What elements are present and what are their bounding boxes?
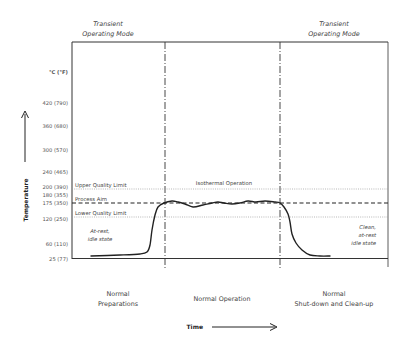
phase3-label-2: Shut-down and Clean-up bbox=[295, 300, 374, 308]
temperature-diagram: Transient Operating Mode Transient Opera… bbox=[0, 0, 404, 346]
mode-left-line2: Operating Mode bbox=[82, 30, 133, 38]
lower-quality-limit-label: Lower Quality Limit bbox=[75, 210, 126, 217]
temperature-curve bbox=[91, 201, 330, 256]
phase1-label-1: Normal bbox=[106, 290, 129, 298]
y-tick-60: 60 (110) bbox=[46, 241, 68, 247]
mode-right-line2: Operating Mode bbox=[308, 30, 359, 38]
y-tick-420: 420 (790) bbox=[43, 100, 69, 106]
y-tick-200: 200 (390) bbox=[43, 184, 69, 190]
y-tick-180: 180 (355) bbox=[43, 192, 69, 198]
x-axis-title: Time bbox=[187, 323, 203, 330]
phase3-label-1: Normal bbox=[322, 290, 345, 298]
isothermal-operation-label: Isothermal Operation bbox=[196, 180, 252, 187]
clean-label-1: Clean, bbox=[359, 224, 376, 230]
at-rest-label-1: At-rest, bbox=[89, 228, 110, 234]
process-aim-label: Process Aim bbox=[75, 196, 107, 202]
y-tick-240: 240 (465) bbox=[43, 169, 69, 175]
at-rest-label-2: idle state bbox=[88, 236, 113, 242]
mode-right-line1: Transient bbox=[319, 20, 349, 28]
clean-label-3: idle state bbox=[351, 240, 376, 246]
y-axis-title: Temperature bbox=[22, 178, 30, 221]
y-tick-25: 25 (77) bbox=[49, 256, 68, 262]
y-unit-label: °C (°F) bbox=[49, 69, 68, 75]
upper-quality-limit-label: Upper Quality Limit bbox=[75, 182, 126, 189]
y-tick-360: 360 (680) bbox=[43, 123, 69, 129]
phase1-label-2: Preparations bbox=[98, 300, 139, 308]
mode-left-line1: Transient bbox=[93, 20, 123, 28]
phase2-label: Normal Operation bbox=[194, 295, 251, 303]
y-tick-120: 120 (250) bbox=[43, 216, 69, 222]
clean-label-2: at-rest bbox=[358, 232, 376, 238]
y-tick-175: 175 (350) bbox=[43, 200, 69, 206]
y-tick-300: 300 (570) bbox=[43, 147, 69, 153]
